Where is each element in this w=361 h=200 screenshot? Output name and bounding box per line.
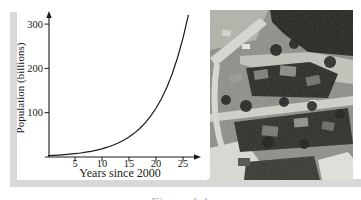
population-growth-chart: 100200300 510152025 Population (billions… (17, 10, 207, 180)
figure-border-bottom (10, 179, 361, 187)
y-axis-ticks: 100200300 (27, 19, 49, 119)
x-axis-label: Years since 2000 (79, 166, 160, 180)
figure-caption: Figure 1.1 (0, 194, 361, 200)
y-axis-arrow-icon (46, 11, 51, 18)
y-tick-label: 100 (27, 107, 43, 118)
y-tick-label: 200 (27, 63, 43, 74)
figure-border-left (10, 12, 17, 187)
y-axis-label: Population (billions) (17, 42, 27, 133)
y-axis (46, 11, 51, 157)
y-tick-label: 300 (27, 19, 43, 30)
x-tick-label: 25 (178, 158, 189, 169)
x-tick-label: 5 (72, 158, 77, 169)
aerial-photo (210, 10, 353, 180)
x-axis-arrow-icon (194, 154, 201, 159)
population-curve (48, 15, 188, 156)
figure-panel: 100200300 510152025 Population (billions… (0, 0, 361, 200)
